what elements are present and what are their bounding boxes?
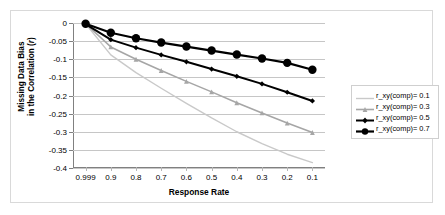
y-axis-tick-label: -0.1 (53, 55, 67, 64)
legend-label: r_xy(comp)= 0.7 (376, 124, 430, 133)
series-line (86, 24, 313, 163)
series-2 (83, 21, 315, 135)
data-point-marker (233, 50, 241, 58)
legend-item-2[interactable]: r_xy(comp)= 0.3 (355, 101, 435, 112)
data-point-marker (310, 98, 315, 103)
x-axis-title: Response Rate (69, 187, 329, 197)
x-axis-tick-label: 0.6 (181, 173, 192, 182)
y-axis-tick-label: -0.35 (49, 145, 67, 154)
y-axis-title-line2-suffix: ) (27, 37, 36, 40)
y-axis-tick-label: -0.15 (49, 73, 67, 82)
x-axis-tick-label: 0.9 (105, 173, 116, 182)
x-axis-tick-label: 0.5 (206, 173, 217, 182)
x-axis-tick-label: 0.7 (156, 173, 167, 182)
legend-key-icon (355, 90, 375, 101)
y-axis-title: Missing Data Bias in the Correlation (r) (17, 17, 36, 137)
y-axis-tick-label: -0.2 (53, 91, 67, 100)
x-axis-tick-label: 0.1 (307, 173, 318, 182)
legend-item-3[interactable]: r_xy(comp)= 0.5 (355, 112, 435, 123)
x-axis-tick-label: 0.2 (282, 173, 293, 182)
chart-legend: r_xy(comp)= 0.1r_xy(comp)= 0.3r_xy(comp)… (351, 85, 439, 139)
y-axis-tick-label: -0.25 (49, 109, 67, 118)
legend-item-1[interactable]: r_xy(comp)= 0.1 (355, 90, 435, 101)
series-plot (73, 23, 325, 168)
y-axis-tick (69, 168, 73, 169)
legend-key-icon (355, 123, 375, 134)
data-point-marker (283, 59, 291, 67)
legend-label: r_xy(comp)= 0.1 (376, 91, 430, 100)
data-point-marker (184, 59, 189, 64)
y-axis-tick-label: -0.3 (53, 127, 67, 136)
data-point-marker (207, 46, 215, 54)
chart-figure: Missing Data Bias in the Correlation (r)… (10, 10, 433, 203)
data-point-marker (132, 34, 140, 42)
plot-area: 0-0.05-0.1-0.15-0.2-0.25-0.3-0.35-0.4 0.… (73, 23, 325, 168)
data-point-marker (107, 29, 115, 37)
legend-label: r_xy(comp)= 0.3 (376, 102, 430, 111)
data-point-marker (157, 38, 165, 46)
data-point-marker (285, 90, 290, 95)
data-point-marker (308, 66, 316, 74)
series-line (86, 24, 313, 133)
y-axis-tick-label: -0.4 (53, 164, 67, 173)
data-point-marker (258, 54, 266, 62)
data-point-marker (234, 74, 239, 79)
y-axis-tick-label: -0.05 (49, 37, 67, 46)
x-axis-tick-label: 0.3 (256, 173, 267, 182)
x-axis-tick-label: 0.8 (130, 173, 141, 182)
data-point-marker (182, 42, 190, 50)
y-axis-title-line2-prefix: in the Correlation ( (27, 43, 36, 116)
legend-label: r_xy(comp)= 0.5 (376, 113, 430, 122)
x-axis-tick-label: 0.999 (76, 173, 96, 182)
legend-item-4[interactable]: r_xy(comp)= 0.7 (355, 123, 435, 134)
data-point-marker (259, 81, 264, 86)
y-axis-title-line1: Missing Data Bias (17, 42, 26, 112)
x-axis-tick-label: 0.4 (231, 173, 242, 182)
series-1 (86, 24, 313, 163)
data-point-marker (159, 52, 164, 57)
data-point-marker (209, 66, 214, 71)
y-axis-tick-label: 0 (63, 19, 67, 28)
y-axis-title-line2-italic: r (27, 40, 36, 43)
data-point-marker (81, 20, 89, 28)
data-point-marker (133, 45, 138, 50)
series-line (86, 24, 313, 70)
legend-key-icon (355, 112, 375, 123)
legend-key-icon (355, 101, 375, 112)
